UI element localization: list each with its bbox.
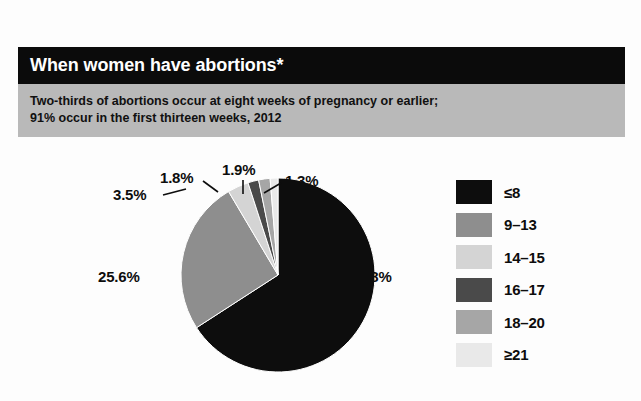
legend-item[interactable]: 14–15: [456, 243, 545, 271]
subhead-bar: Two-thirds of abortions occur at eight w…: [18, 84, 625, 137]
legend-swatch: [456, 310, 492, 334]
subtitle-line-2: 91% occur in the first thirteen weeks, 2…: [30, 110, 610, 127]
legend-label: 18–20: [504, 314, 545, 331]
subtitle-line-1: Two-thirds of abortions occur at eight w…: [30, 93, 610, 110]
legend-label: ≥21: [504, 346, 528, 363]
page-title: When women have abortions*: [30, 55, 283, 76]
legend: ≤89–1314–1516–1718–20≥21: [456, 178, 545, 373]
legend-label: 16–17: [504, 281, 545, 298]
pie-value-label-le8: 65.8%: [350, 268, 392, 285]
subtitle: Two-thirds of abortions occur at eight w…: [30, 93, 610, 127]
legend-swatch: [456, 278, 492, 302]
legend-label: ≤8: [504, 184, 520, 201]
legend-swatch: [456, 213, 492, 237]
pie-value-label-9-13: 25.6%: [98, 268, 140, 285]
legend-item[interactable]: 9–13: [456, 211, 545, 239]
header-bar: When women have abortions*: [18, 47, 625, 84]
chart-area: 65.8% 25.6% 3.5% 1.8% 1.9% 1.3% ≤89–1314…: [0, 137, 641, 401]
figure-page: When women have abortions* Two-thirds of…: [0, 0, 641, 401]
legend-item[interactable]: 16–17: [456, 276, 545, 304]
legend-swatch: [456, 180, 492, 204]
legend-label: 9–13: [504, 216, 537, 233]
pie-value-label-14-15: 3.5%: [113, 186, 146, 203]
legend-swatch: [456, 245, 492, 269]
legend-item[interactable]: ≤8: [456, 178, 545, 206]
legend-item[interactable]: ≥21: [456, 341, 545, 369]
legend-swatch: [456, 343, 492, 367]
pie-value-label-ge21: 1.3%: [285, 172, 318, 189]
pie-value-label-18-20: 1.9%: [222, 161, 255, 178]
legend-item[interactable]: 18–20: [456, 308, 545, 336]
pie-value-label-16-17: 1.8%: [160, 169, 193, 186]
legend-label: 14–15: [504, 249, 545, 266]
